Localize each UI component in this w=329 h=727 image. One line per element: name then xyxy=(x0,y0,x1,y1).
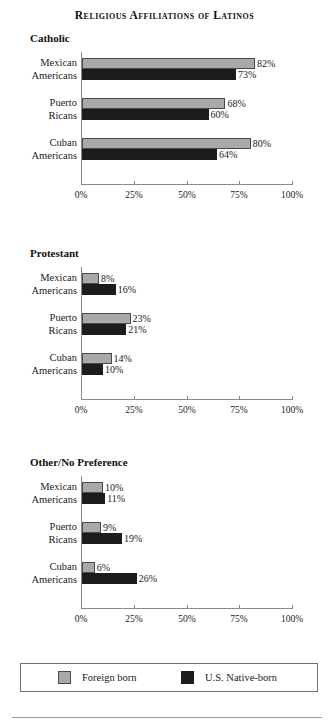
category-label: CubanAmericans xyxy=(0,137,77,162)
bar-value-label: 9% xyxy=(103,522,116,533)
bar-value-label: 19% xyxy=(124,533,142,544)
bar-value-label: 10% xyxy=(105,482,123,493)
legend-item-foreign-born: Foreign born xyxy=(58,671,137,684)
category-label: MexicanAmericans xyxy=(0,57,77,82)
chart-legend: Foreign born U.S. Native-born xyxy=(20,663,318,692)
bar xyxy=(82,313,131,324)
x-axis-tick xyxy=(134,396,135,400)
bar xyxy=(82,138,251,149)
category-label: PuertoRicans xyxy=(0,521,77,546)
x-axis-tick-label: 0% xyxy=(61,190,101,200)
bar xyxy=(82,273,99,284)
x-axis-tick xyxy=(239,181,240,185)
x-axis-tick-label: 50% xyxy=(167,405,207,415)
x-axis-tick-label: 100% xyxy=(272,405,312,415)
x-axis-tick-label: 100% xyxy=(272,190,312,200)
bar-value-label: 73% xyxy=(238,69,256,80)
bar-value-label: 23% xyxy=(133,313,151,324)
x-axis-tick-label: 75% xyxy=(219,614,259,624)
bar-value-label: 21% xyxy=(128,324,146,335)
category-label: MexicanAmericans xyxy=(0,272,77,297)
bar-value-label: 26% xyxy=(139,573,157,584)
bar xyxy=(82,493,105,504)
bar xyxy=(82,109,209,120)
panel-heading: Protestant xyxy=(30,247,79,259)
x-axis-tick-label: 0% xyxy=(61,405,101,415)
x-axis-tick-label: 25% xyxy=(114,614,154,624)
bar-value-label: 80% xyxy=(253,138,271,149)
bar-value-label: 82% xyxy=(257,58,275,69)
category-label: PuertoRicans xyxy=(0,312,77,337)
category-label: CubanAmericans xyxy=(0,352,77,377)
x-axis-tick-label: 75% xyxy=(219,190,259,200)
x-axis-tick xyxy=(134,181,135,185)
chart-page: Religious Affiliations of Latinos Cathol… xyxy=(0,0,329,727)
bar xyxy=(82,98,225,109)
panel-heading: Other/No Preference xyxy=(30,456,128,468)
bar-value-label: 68% xyxy=(227,98,245,109)
x-axis-tick xyxy=(187,181,188,185)
footer-divider xyxy=(12,717,322,718)
bar xyxy=(82,573,137,584)
bar xyxy=(82,149,217,160)
bar-value-label: 11% xyxy=(107,493,125,504)
x-axis-tick xyxy=(134,605,135,609)
legend-item-native-born: U.S. Native-born xyxy=(181,671,277,684)
legend-label-native-born: U.S. Native-born xyxy=(205,672,277,683)
bar-value-label: 10% xyxy=(105,364,123,375)
x-axis-tick xyxy=(292,181,293,185)
legend-label-foreign-born: Foreign born xyxy=(82,672,137,683)
bar-value-label: 60% xyxy=(211,109,229,120)
bar xyxy=(82,562,95,573)
category-label: PuertoRicans xyxy=(0,97,77,122)
x-axis-tick xyxy=(187,605,188,609)
x-axis-tick xyxy=(81,605,82,609)
bar xyxy=(82,482,103,493)
x-axis-tick-label: 75% xyxy=(219,405,259,415)
x-axis-tick xyxy=(187,396,188,400)
legend-swatch-foreign-born-icon xyxy=(58,671,71,684)
bar xyxy=(82,533,122,544)
bar xyxy=(82,353,112,364)
x-axis-tick xyxy=(81,181,82,185)
x-axis-tick-label: 25% xyxy=(114,405,154,415)
x-axis-tick-label: 50% xyxy=(167,190,207,200)
x-axis-tick xyxy=(81,396,82,400)
x-axis-tick-label: 100% xyxy=(272,614,312,624)
x-axis-tick-label: 50% xyxy=(167,614,207,624)
x-axis-tick xyxy=(239,396,240,400)
x-axis-tick xyxy=(239,605,240,609)
bar-value-label: 8% xyxy=(101,273,114,284)
bar-value-label: 16% xyxy=(118,284,136,295)
page-title: Religious Affiliations of Latinos xyxy=(0,9,329,21)
bar xyxy=(82,58,255,69)
bar xyxy=(82,364,103,375)
x-axis-tick-label: 25% xyxy=(114,190,154,200)
panel-heading: Catholic xyxy=(30,32,70,44)
bar xyxy=(82,69,236,80)
x-axis-tick-label: 0% xyxy=(61,614,101,624)
bar-value-label: 14% xyxy=(114,353,132,364)
category-label: CubanAmericans xyxy=(0,561,77,586)
category-label: MexicanAmericans xyxy=(0,481,77,506)
bar-value-label: 6% xyxy=(97,562,110,573)
legend-swatch-native-born-icon xyxy=(181,671,194,684)
bar xyxy=(82,522,101,533)
bar-value-label: 64% xyxy=(219,149,237,160)
x-axis-tick xyxy=(292,605,293,609)
bar xyxy=(82,284,116,295)
bar xyxy=(82,324,126,335)
x-axis-tick xyxy=(292,396,293,400)
